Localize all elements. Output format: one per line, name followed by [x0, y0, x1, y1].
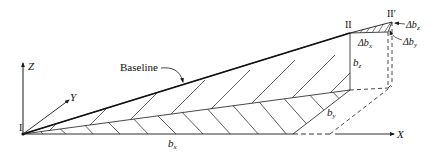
delta-bz-annotation: Δbz [395, 19, 420, 32]
point-i-label: I [19, 122, 22, 133]
vertical-plane-hatch [40, 40, 400, 140]
y-axis-label: Y [70, 91, 78, 103]
point-ii-label: II [345, 19, 352, 30]
bx-label: bx [168, 137, 178, 151]
delta-bx-edge [350, 32, 388, 33]
point-ii-prime-label: II′ [387, 8, 396, 19]
delta-bz-label: Δbz [405, 19, 420, 32]
delta-bx-label: Δbx [357, 37, 373, 50]
bz-label: bz [353, 56, 362, 70]
baseline-diagram: Z Y X [0, 0, 440, 153]
by-label: by [327, 106, 337, 120]
point-i-marker [21, 132, 24, 135]
x-axis-label: X [396, 128, 405, 140]
baseline-annotation: Baseline [120, 61, 183, 82]
baseline-label: Baseline [120, 61, 158, 73]
baseline-vector [23, 33, 350, 134]
delta-by-annotation: Δby [390, 31, 418, 49]
z-axis: Z [23, 60, 35, 134]
z-axis-label: Z [28, 60, 35, 72]
x-axis: X [23, 128, 405, 140]
baseline-prime [350, 22, 392, 33]
delta-by-label: Δby [402, 36, 418, 49]
